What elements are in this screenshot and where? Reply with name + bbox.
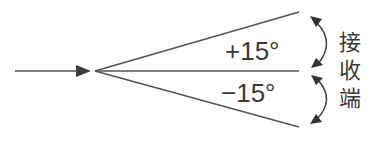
lower-curved-double-arrow-icon — [316, 80, 327, 120]
angle-diagram: +15° −15° 接 收 端 — [0, 0, 385, 145]
lower-angle-label: −15° — [221, 78, 276, 108]
upper-arrowhead-top-icon — [310, 16, 322, 27]
receiver-label-char-2: 收 — [339, 58, 361, 83]
receiver-label-char-3: 端 — [339, 86, 361, 111]
receiver-label-char-1: 接 — [339, 30, 361, 55]
incoming-arrowhead-icon — [76, 65, 91, 77]
upper-angle-label: +15° — [225, 36, 280, 66]
upper-curved-double-arrow-icon — [316, 22, 327, 64]
